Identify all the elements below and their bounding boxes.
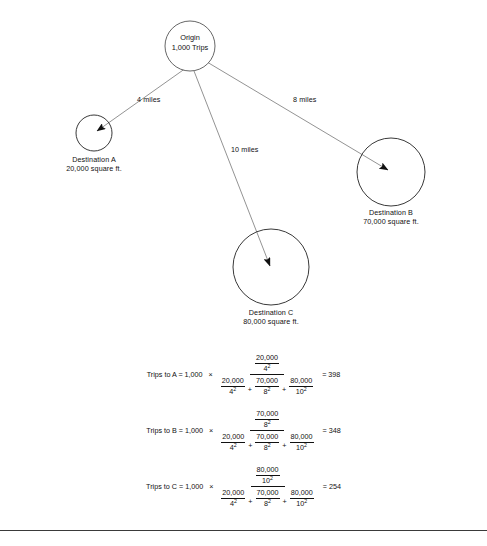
destination-a-circle: [76, 115, 112, 151]
formula-b-num-term: 70,000 82: [254, 409, 280, 429]
destination-a-label: Destination A 20,000 square ft.: [44, 155, 144, 173]
destination-b-label: Destination B 70,000 square ft.: [341, 208, 441, 226]
formula-a-numerator: 20,000 42: [250, 352, 284, 375]
formula-a-times: ×: [206, 370, 216, 379]
formula-b-result: = 348: [319, 426, 341, 435]
formula-c-den-term-1: 20,000 42: [220, 488, 246, 508]
formula-c-plus-2: +: [281, 497, 289, 506]
formula-c-lead: Trips to C = 1,000: [146, 482, 206, 491]
formula-a-denominator: 20,000 42 + 70,000 82 + 80,000 102: [216, 375, 318, 397]
formula-a-plus-1: +: [246, 385, 254, 394]
formula-a-den-term-3: 80,000 102: [288, 376, 314, 396]
destination-c-label: Destination C 80,000 square ft.: [221, 308, 321, 326]
formula-a-den-term-2: 70,000 82: [254, 376, 280, 396]
origin-label: Origin 1,000 Trips: [155, 33, 225, 53]
formula-b-num-bottom: 82: [263, 420, 272, 430]
formula-b-den-term-3: 80,000 102: [289, 432, 315, 452]
formula-a-result: = 398: [318, 370, 340, 379]
formula-c-num-top: 80,000: [256, 465, 280, 476]
distance-label-a: 4 miles: [137, 95, 160, 104]
formula-trips-to-a: Trips to A = 1,000 × 20,000 42 20,000 42…: [0, 352, 487, 397]
formula-a-num-term: 20,000 42: [254, 353, 280, 373]
destination-b-size: 70,000 square ft.: [341, 217, 441, 226]
formula-c-den-term-2: 70,000 82: [255, 488, 281, 508]
origin-name: Origin: [155, 33, 225, 43]
formula-b-den-term-1: 20,000 42: [220, 432, 246, 452]
formula-c-numerator: 80,000 102: [251, 464, 285, 487]
formula-a-fraction: 20,000 42 20,000 42 + 70,000 82 + 80,000…: [216, 352, 318, 397]
destination-c-circle: [233, 229, 309, 305]
destination-a-size: 20,000 square ft.: [44, 164, 144, 173]
destination-c-size: 80,000 square ft.: [221, 317, 321, 326]
formula-a-den-term-1: 20,000 42: [220, 376, 246, 396]
destination-c-name: Destination C: [221, 308, 321, 317]
formula-a-num-bottom: 42: [262, 364, 271, 374]
formula-trips-to-c: Trips to C = 1,000 × 80,000 102 20,000 4…: [0, 464, 487, 509]
distance-label-c: 10 miles: [231, 145, 259, 154]
distance-label-b: 8 miles: [293, 95, 316, 104]
formula-c-result: = 254: [319, 482, 341, 491]
connector-origin-to-c: [194, 71, 270, 266]
formula-b-plus-2: +: [280, 441, 288, 450]
formula-c-denominator: 20,000 42 + 70,000 82 + 80,000 102: [216, 487, 318, 509]
formula-b-den-term-2: 70,000 82: [254, 432, 280, 452]
formula-b-denominator: 20,000 42 + 70,000 82 + 80,000 102: [216, 431, 318, 453]
formula-c-num-term: 80,000 102: [255, 465, 281, 485]
bottom-divider: [0, 530, 487, 531]
formula-c-num-bottom: 102: [261, 476, 274, 486]
formula-trips-to-b: Trips to B = 1,000 × 70,000 82 20,000 42…: [0, 408, 487, 453]
formula-a-plus-2: +: [280, 385, 288, 394]
formula-b-plus-1: +: [246, 441, 254, 450]
formula-b-times: ×: [206, 426, 216, 435]
formula-a-lead: Trips to A = 1,000: [147, 370, 206, 379]
formula-b-numerator: 70,000 82: [250, 408, 284, 431]
formula-b-fraction: 70,000 82 20,000 42 + 70,000 82 + 80,000…: [216, 408, 318, 453]
destination-a-name: Destination A: [44, 155, 144, 164]
destination-b-name: Destination B: [341, 208, 441, 217]
destination-b-circle: [357, 138, 425, 206]
formula-c-den-term-3: 80,000 102: [289, 488, 315, 508]
formula-c-fraction: 80,000 102 20,000 42 + 70,000 82 + 80,00…: [216, 464, 318, 509]
formula-b-lead: Trips to B = 1,000: [146, 426, 206, 435]
formula-c-times: ×: [206, 482, 216, 491]
formula-c-plus-1: +: [246, 497, 254, 506]
origin-trips: 1,000 Trips: [155, 43, 225, 53]
